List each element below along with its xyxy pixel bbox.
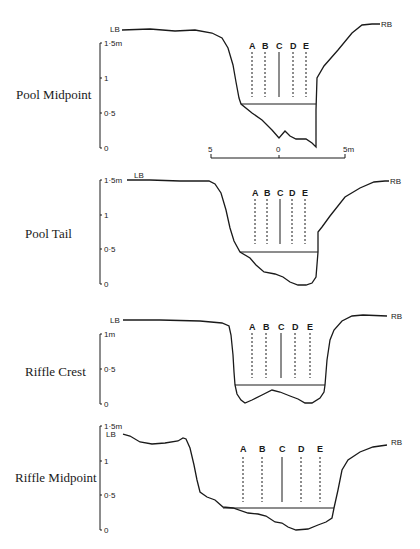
profile-riffle-crest: Riffle Crest 1m 0·5 0 LB RB A B C D E [25, 312, 402, 409]
left-bank-label: LB [134, 171, 144, 180]
left-bank-label: LB [110, 316, 120, 325]
y-axis: 1·5m 1 0·5 0 [100, 176, 123, 289]
profile-title: Pool Midpoint [16, 87, 92, 102]
svg-text:E: E [307, 322, 313, 332]
right-bank-label: RB [391, 438, 402, 447]
profile-title: Riffle Midpoint [15, 470, 97, 485]
svg-text:A: A [249, 322, 256, 332]
svg-text:C: C [278, 322, 285, 332]
right-bank-label: RB [391, 312, 402, 321]
left-bank-label: LB [110, 25, 120, 34]
svg-text:1m: 1m [104, 330, 115, 339]
right-bank-label: RB [381, 20, 392, 29]
svg-text:E: E [302, 188, 308, 198]
svg-text:D: D [289, 188, 296, 198]
svg-text:0·5: 0·5 [104, 109, 116, 118]
cross-section-diagram: Pool Midpoint 1·5m 1 0·5 0 LB RB A B C D… [0, 0, 420, 549]
svg-text:B: B [259, 444, 266, 454]
channel-bed [123, 434, 387, 530]
svg-text:D: D [298, 444, 305, 454]
right-bank-label: RB [390, 177, 401, 186]
svg-text:A: A [249, 41, 256, 51]
left-bank-label: LB [106, 430, 116, 439]
svg-text:E: E [317, 444, 323, 454]
svg-text:1: 1 [104, 211, 109, 220]
svg-text:0: 0 [276, 145, 281, 154]
profile-pool-tail: Pool Tail 1·5m 1 0·5 0 LB RB A B C D E [25, 171, 401, 289]
svg-text:1·5m: 1·5m [104, 176, 123, 185]
svg-text:A: A [252, 188, 259, 198]
svg-text:0: 0 [104, 280, 109, 289]
svg-text:0: 0 [104, 526, 109, 535]
profile-pool-midpoint: Pool Midpoint 1·5m 1 0·5 0 LB RB A B C D… [16, 20, 392, 158]
profile-title: Riffle Crest [25, 364, 86, 379]
svg-text:B: B [263, 322, 270, 332]
svg-text:0·5: 0·5 [104, 491, 116, 500]
y-axis: 1m 0·5 0 [100, 330, 116, 409]
svg-text:B: B [262, 41, 269, 51]
y-axis: 1·5m 1 0·5 0 [100, 39, 123, 153]
svg-text:E: E [303, 41, 309, 51]
svg-text:C: C [279, 444, 286, 454]
svg-text:D: D [290, 41, 297, 51]
svg-text:5: 5 [208, 145, 213, 154]
scale-bar: 5 0 5m [208, 145, 354, 158]
svg-text:C: C [277, 188, 284, 198]
svg-text:1·5m: 1·5m [104, 39, 123, 48]
profile-riffle-midpoint: Riffle Midpoint 1·5m 1 0·5 0 LB RB A B C… [15, 422, 402, 535]
svg-text:A: A [240, 444, 247, 454]
svg-text:C: C [276, 41, 283, 51]
svg-text:0·5: 0·5 [104, 245, 116, 254]
svg-text:B: B [264, 188, 271, 198]
svg-text:D: D [292, 322, 299, 332]
svg-text:0·5: 0·5 [104, 365, 116, 374]
svg-text:0: 0 [104, 400, 109, 409]
svg-text:1: 1 [104, 457, 109, 466]
svg-text:0: 0 [104, 144, 109, 153]
svg-text:5m: 5m [343, 145, 354, 154]
profile-title: Pool Tail [25, 226, 72, 241]
svg-text:1: 1 [104, 74, 109, 83]
